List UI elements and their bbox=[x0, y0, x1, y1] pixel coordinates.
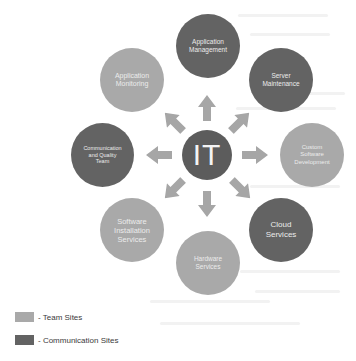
node-label: Cloud Services bbox=[260, 220, 303, 239]
background-artifact bbox=[150, 300, 270, 303]
node-software-installation-services: Software Installation Services bbox=[100, 198, 164, 262]
background-artifact bbox=[250, 33, 330, 36]
arrow-up-right-icon bbox=[224, 106, 255, 137]
node-hardware-services: Hardware Services bbox=[176, 231, 240, 295]
legend-label: - Team Sites bbox=[38, 313, 82, 322]
node-label: Software Installation Services bbox=[108, 217, 156, 244]
node-label: Application Monitoring bbox=[109, 72, 155, 89]
arrow-down-right-icon bbox=[225, 173, 256, 204]
background-artifact bbox=[240, 270, 340, 273]
arrow-left-icon bbox=[146, 146, 172, 164]
node-label: Server Maintenance bbox=[256, 72, 305, 88]
team-sites-swatch bbox=[15, 312, 34, 322]
arrow-down-icon bbox=[198, 191, 216, 217]
it-sites-diagram: IT Application Management Server Mainten… bbox=[0, 0, 356, 361]
node-communication-and-quality-team: Communication and Quality Team bbox=[71, 123, 134, 187]
legend-item-team-sites: - Team Sites bbox=[15, 312, 82, 322]
arrow-down-left-icon bbox=[158, 173, 189, 204]
legend-item-communication-sites: - Communication Sites bbox=[15, 335, 118, 345]
background-artifact bbox=[250, 185, 340, 188]
center-label: IT bbox=[187, 137, 228, 173]
node-application-management: Application Management bbox=[176, 14, 240, 78]
arrow-up-left-icon bbox=[158, 106, 189, 137]
communication-sites-swatch bbox=[15, 335, 34, 345]
arrow-up-icon bbox=[198, 95, 216, 121]
node-application-monitoring: Application Monitoring bbox=[100, 48, 164, 112]
legend-label: - Communication Sites bbox=[38, 336, 118, 345]
node-label: Hardware Services bbox=[188, 255, 228, 271]
center-node-it: IT bbox=[182, 130, 232, 180]
background-artifact bbox=[255, 290, 340, 293]
background-artifact bbox=[160, 322, 300, 325]
node-server-maintenance: Server Maintenance bbox=[249, 48, 313, 112]
background-artifact bbox=[238, 14, 328, 17]
node-label: Custom Software Development bbox=[288, 144, 335, 166]
arrow-right-icon bbox=[242, 146, 268, 164]
node-custom-software-development: Custom Software Development bbox=[280, 123, 344, 187]
node-label: Communication and Quality Team bbox=[77, 145, 127, 165]
node-label: Application Management bbox=[183, 38, 233, 54]
node-cloud-services: Cloud Services bbox=[249, 198, 313, 262]
